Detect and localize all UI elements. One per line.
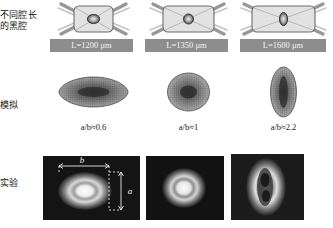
dimension-b-label: b	[80, 155, 85, 165]
row-label-hohlraum: 不同腔长 的黑腔	[0, 10, 46, 32]
cavity-length-badge-col-2: L=1350 μm	[145, 39, 228, 52]
simulation-mesh-icon	[59, 77, 128, 107]
experiment-image-col-3	[231, 150, 304, 222]
experiment-image-col-2	[146, 150, 224, 222]
cavity-length-badge-col-1: L=1200 μm	[50, 39, 133, 52]
hohlraum-schematic-col-1	[46, 2, 141, 36]
row-label-hohlraum-line2: 的黑腔	[0, 21, 46, 32]
aspect-ratio-label-col-3: a/b≈2.2	[236, 122, 331, 132]
dimension-a-label: a	[128, 186, 133, 196]
simulation-mesh-col-3	[236, 64, 331, 120]
capsule-icon	[184, 14, 194, 24]
row-label-simulation: 模拟	[0, 100, 46, 111]
figure-panel: 不同腔长 的黑腔 模拟 实验	[0, 0, 333, 228]
capsule-icon	[87, 14, 99, 23]
row-label-hohlraum-line1: 不同腔长	[0, 10, 46, 21]
row-label-experiment: 实验	[0, 178, 46, 189]
simulation-mesh-col-2	[141, 64, 236, 120]
simulation-mesh-icon	[168, 73, 210, 111]
capsule-icon	[279, 12, 287, 25]
aspect-ratio-label-col-1: a/b≈0.6	[46, 122, 141, 132]
simulation-mesh-icon	[271, 67, 297, 117]
simulation-mesh-col-1	[46, 64, 141, 120]
experiment-image-col-1: b a	[43, 150, 140, 222]
cavity-length-badge-col-3: L=1600 μm	[240, 39, 326, 52]
aspect-ratio-label-col-2: a/b≈1	[141, 122, 236, 132]
hohlraum-schematic-col-2	[141, 2, 236, 36]
hohlraum-schematic-col-3	[236, 2, 331, 36]
